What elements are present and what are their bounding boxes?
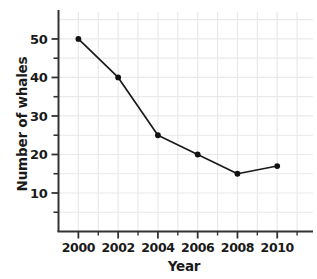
- grid-lines: [59, 12, 314, 232]
- y-axis-tick-labels: 1020304050: [30, 32, 48, 201]
- x-axis-ticks: [78, 232, 297, 239]
- y-axis-tick-label: 20: [30, 147, 48, 162]
- y-axis-tick-label: 30: [30, 109, 48, 124]
- axis-lines: [58, 10, 314, 232]
- data-point-marker: [115, 75, 121, 81]
- data-point-marker: [195, 152, 201, 158]
- y-axis-ticks: [52, 39, 59, 212]
- data-point-marker: [155, 132, 161, 138]
- data-point-marker: [235, 171, 241, 177]
- x-axis-tick-label: 2000: [62, 240, 96, 255]
- x-axis-tick-labels: 200020022004200620082010: [62, 240, 295, 255]
- x-axis-tick-label: 2010: [261, 240, 295, 255]
- plot-area: 1020304050 200020022004200620082010: [0, 0, 317, 279]
- y-axis-tick-label: 10: [30, 186, 48, 201]
- y-axis-tick-label: 40: [30, 70, 48, 85]
- x-axis-tick-label: 2006: [181, 240, 215, 255]
- y-axis-tick-label: 50: [30, 32, 48, 47]
- x-axis-tick-label: 2002: [102, 240, 135, 255]
- line-chart: Number of whales 1020304050 200020022004…: [0, 0, 317, 279]
- x-axis-title: Year: [56, 258, 312, 274]
- data-point-marker: [274, 163, 280, 169]
- x-axis-tick-label: 2008: [221, 240, 254, 255]
- x-axis-tick-label: 2004: [141, 240, 175, 255]
- data-point-marker: [75, 36, 81, 42]
